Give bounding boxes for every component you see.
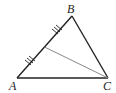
label-a: A xyxy=(8,79,17,93)
tick-marks-am xyxy=(25,56,35,65)
label-c: C xyxy=(103,79,112,93)
label-b: B xyxy=(67,2,75,16)
triangle-diagram: A B C xyxy=(0,0,116,93)
